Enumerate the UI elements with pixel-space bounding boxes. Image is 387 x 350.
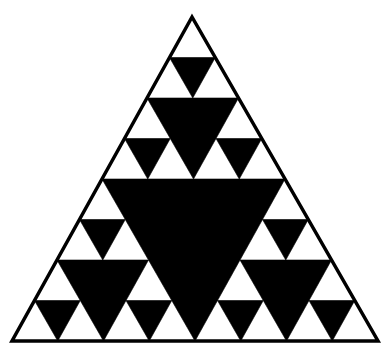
sierpinski-triangle-figure [0,0,387,350]
removed-triangles [35,58,355,342]
